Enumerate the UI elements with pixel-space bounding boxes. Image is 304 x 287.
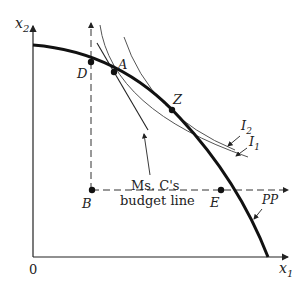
i1-label: I1: [248, 134, 260, 152]
budget-label-line1: Ms. C's: [131, 178, 179, 193]
point-b: [89, 187, 95, 193]
y-axis-label: x2: [15, 15, 29, 34]
point-e: [218, 187, 224, 193]
label-d: D: [76, 66, 88, 81]
point-d: [88, 59, 94, 65]
label-z: Z: [172, 92, 183, 107]
x-axis-label: x1: [279, 260, 293, 279]
budget-label-line2: budget line: [120, 193, 195, 208]
label-a: A: [117, 57, 127, 72]
point-a: [111, 69, 117, 75]
label-e: E: [209, 195, 220, 210]
ppf-label: PP: [261, 193, 279, 207]
indifference-curve-i1: [100, 25, 248, 157]
budget-label-arrow: [144, 134, 150, 175]
origin-label: 0: [29, 262, 37, 277]
i2-label-arrow: [228, 136, 240, 146]
ppf-label-arrow: [254, 209, 262, 219]
label-b: B: [81, 196, 92, 211]
trade-diagram: x2 x1 0 D A Z E B I2 I1 PP Ms. C's budge…: [0, 0, 304, 287]
point-z: [169, 107, 175, 113]
